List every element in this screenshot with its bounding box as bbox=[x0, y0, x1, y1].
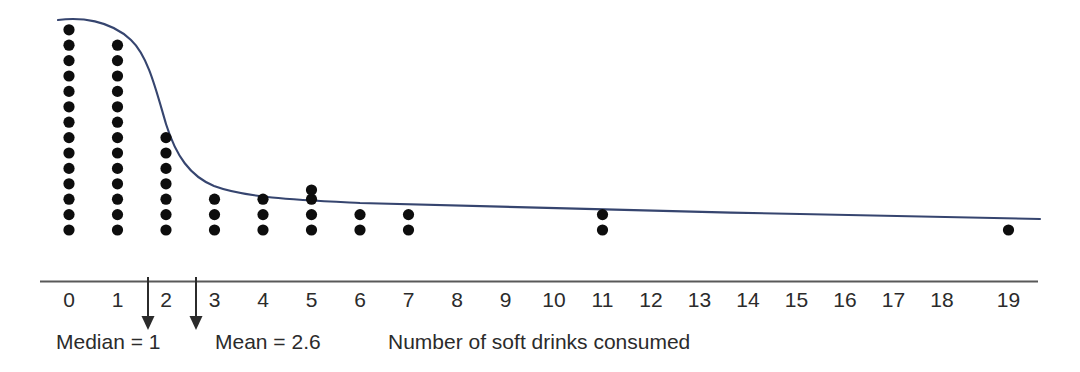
dot bbox=[112, 194, 123, 205]
dot bbox=[160, 178, 171, 189]
dot bbox=[354, 209, 365, 220]
median-arrow-icon bbox=[142, 277, 155, 330]
median-annotation-label: Median = 1 bbox=[56, 331, 161, 352]
soft-drinks-dot-plot-figure: 0 1 2 3 4 5 6 7 8 9 10 11 12 13 14 15 16… bbox=[0, 0, 1080, 372]
dot bbox=[112, 163, 123, 174]
x-tick-label-12: 12 bbox=[639, 289, 662, 310]
dot bbox=[112, 55, 123, 66]
x-tick-label-3: 3 bbox=[209, 289, 221, 310]
dot bbox=[160, 224, 171, 235]
dot bbox=[63, 70, 74, 81]
dot bbox=[63, 147, 74, 158]
dot bbox=[63, 178, 74, 189]
dot-column-3 bbox=[209, 194, 220, 236]
dot-column-0 bbox=[63, 24, 74, 235]
dot bbox=[112, 40, 123, 51]
dot bbox=[112, 101, 123, 112]
dot bbox=[63, 224, 74, 235]
dot bbox=[306, 184, 317, 195]
dot bbox=[306, 224, 317, 235]
dot-stacks-group bbox=[63, 24, 1014, 235]
dot bbox=[160, 163, 171, 174]
dot bbox=[403, 209, 414, 220]
dot bbox=[63, 194, 74, 205]
dot bbox=[257, 224, 268, 235]
x-tick-label-15: 15 bbox=[785, 289, 808, 310]
x-tick-label-5: 5 bbox=[306, 289, 318, 310]
dot bbox=[112, 209, 123, 220]
dot-column-7 bbox=[403, 209, 414, 236]
dot bbox=[597, 209, 608, 220]
dot bbox=[160, 132, 171, 143]
dot bbox=[112, 178, 123, 189]
x-tick-label-2: 2 bbox=[160, 289, 172, 310]
x-tick-label-9: 9 bbox=[500, 289, 512, 310]
x-tick-label-6: 6 bbox=[354, 289, 366, 310]
dot bbox=[63, 209, 74, 220]
x-tick-label-0: 0 bbox=[63, 289, 75, 310]
x-tick-label-19: 19 bbox=[997, 289, 1020, 310]
dot bbox=[112, 224, 123, 235]
x-tick-label-7: 7 bbox=[403, 289, 415, 310]
mean-annotation-label: Mean = 2.6 bbox=[215, 331, 321, 352]
x-tick-label-17: 17 bbox=[882, 289, 905, 310]
x-tick-label-13: 13 bbox=[688, 289, 711, 310]
dot-column-11 bbox=[597, 209, 608, 236]
x-axis-title: Number of soft drinks consumed bbox=[388, 331, 690, 352]
dot bbox=[209, 209, 220, 220]
dot bbox=[63, 163, 74, 174]
dot bbox=[209, 194, 220, 205]
plot-canvas bbox=[0, 0, 1080, 372]
dot bbox=[112, 86, 123, 97]
dot bbox=[160, 209, 171, 220]
dot bbox=[257, 209, 268, 220]
dot bbox=[160, 147, 171, 158]
dot-column-4 bbox=[257, 194, 268, 236]
x-tick-label-10: 10 bbox=[542, 289, 565, 310]
dot bbox=[63, 55, 74, 66]
dot bbox=[63, 24, 74, 35]
dot bbox=[112, 147, 123, 158]
dot bbox=[63, 86, 74, 97]
density-curve bbox=[58, 19, 1040, 219]
dot bbox=[403, 224, 414, 235]
dot bbox=[257, 194, 268, 205]
density-curve-group bbox=[58, 19, 1040, 219]
dot bbox=[354, 224, 365, 235]
dot-column-6 bbox=[354, 209, 365, 236]
x-tick-label-11: 11 bbox=[592, 289, 614, 310]
dot bbox=[112, 117, 123, 128]
x-tick-label-1: 1 bbox=[112, 289, 124, 310]
dot-column-1 bbox=[112, 40, 123, 236]
dot bbox=[63, 40, 74, 51]
x-tick-label-8: 8 bbox=[451, 289, 463, 310]
dot bbox=[306, 209, 317, 220]
dot bbox=[1003, 224, 1014, 235]
x-tick-label-4: 4 bbox=[257, 289, 269, 310]
x-tick-label-14: 14 bbox=[736, 289, 759, 310]
dot bbox=[597, 224, 608, 235]
dot bbox=[160, 194, 171, 205]
dot bbox=[63, 117, 74, 128]
dot-column-2 bbox=[160, 132, 171, 236]
x-tick-label-18: 18 bbox=[930, 289, 953, 310]
dot bbox=[209, 224, 220, 235]
mean-arrow-icon bbox=[190, 277, 203, 330]
dot bbox=[63, 101, 74, 112]
dot-column-5 bbox=[306, 184, 317, 235]
dot bbox=[63, 132, 74, 143]
dot bbox=[112, 132, 123, 143]
dot bbox=[112, 70, 123, 81]
x-tick-label-16: 16 bbox=[833, 289, 856, 310]
dot-column-19 bbox=[1003, 224, 1014, 235]
